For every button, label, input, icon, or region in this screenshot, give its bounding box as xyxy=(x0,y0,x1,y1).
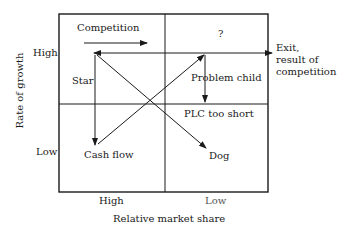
dog-label: Dog xyxy=(209,150,229,161)
star-label: Star xyxy=(72,75,94,86)
exit-label-1: Exit, xyxy=(276,42,299,53)
y-tick-high: High xyxy=(33,47,58,58)
problem-child-label: Problem child xyxy=(191,72,262,83)
matrix-frame xyxy=(59,14,268,192)
matrix-lines xyxy=(0,0,351,231)
cash-flow-label: Cash flow xyxy=(84,149,134,160)
y-tick-low: Low xyxy=(36,146,57,157)
plc-too-short-label: PLC too short xyxy=(184,108,254,119)
question-mark-label: ? xyxy=(218,28,223,39)
competition-label: Competition xyxy=(77,22,139,33)
boston-matrix-diagram: Competition ? Exit, result of competitio… xyxy=(0,0,351,231)
x-tick-low: Low xyxy=(205,195,226,206)
y-axis-title: Rate of growth xyxy=(14,59,25,129)
x-tick-high: High xyxy=(99,195,124,206)
cashflow-to-problemchild-arrow xyxy=(98,55,204,144)
exit-label-3: competition xyxy=(276,66,336,77)
exit-label-2: result of xyxy=(276,54,318,65)
star-to-dog-arrow xyxy=(97,55,206,148)
x-axis-title: Relative market share xyxy=(113,213,225,224)
